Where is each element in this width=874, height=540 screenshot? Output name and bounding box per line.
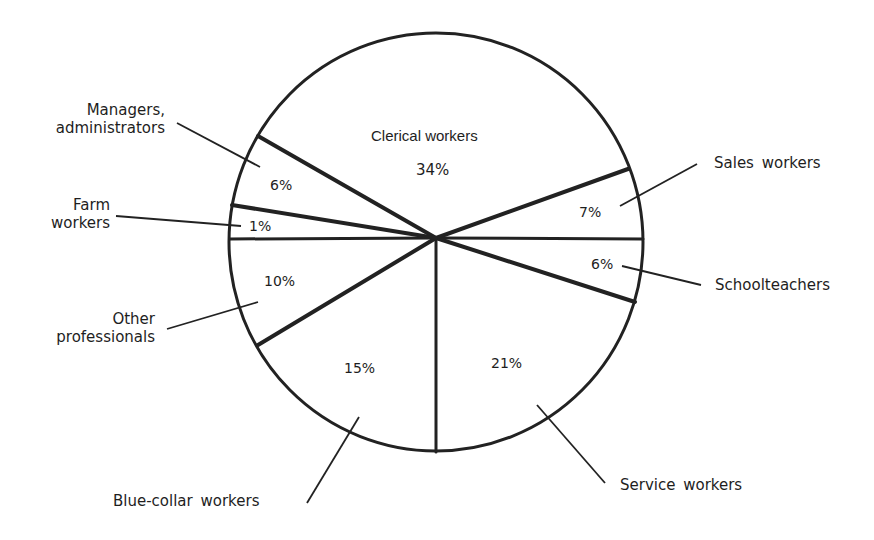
- leader-service: [537, 405, 605, 483]
- divider-sales-schoolteachers: [436, 238, 643, 239]
- slice-pct-managers: 6%: [270, 177, 292, 194]
- slice-pct-bluecollar: 15%: [344, 360, 375, 377]
- label-bluecollar: Blue-collar workers: [113, 492, 259, 510]
- divider-otherprof-farm: [230, 238, 436, 239]
- label-farm: Farm workers: [30, 196, 110, 233]
- leader-bluecollar: [307, 417, 359, 503]
- leader-managers: [177, 123, 260, 167]
- slice-name-clerical: Clerical workers: [371, 127, 478, 145]
- label-sales: Sales workers: [714, 154, 821, 172]
- slice-pct-clerical: 34%: [416, 161, 449, 179]
- label-otherprof: Other professionals: [30, 310, 155, 347]
- slice-pct-schoolteachers: 6%: [591, 256, 613, 273]
- pie-chart: [0, 0, 874, 540]
- slice-pct-farm: 1%: [249, 218, 271, 235]
- slice-pct-otherprof: 10%: [264, 273, 295, 290]
- slice-pct-service: 21%: [491, 355, 522, 372]
- leader-farm: [116, 216, 241, 226]
- label-schoolteachers: Schoolteachers: [715, 276, 830, 294]
- slice-pct-sales: 7%: [579, 204, 601, 221]
- label-service: Service workers: [620, 476, 742, 494]
- label-managers: Managers, administrators: [30, 101, 165, 138]
